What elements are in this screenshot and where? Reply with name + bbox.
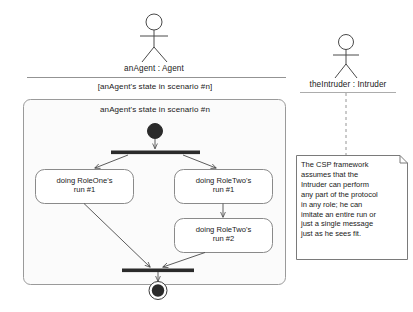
fork-bar (111, 151, 200, 155)
note-body-text: The CSP framework assumes that the Intru… (301, 160, 405, 239)
initial-node (148, 124, 163, 139)
activity-role-one-run-1-line1: doing RoleOne's (35, 176, 134, 185)
activity-role-two-run-1-label: doing RoleTwo's run #1 (174, 176, 273, 195)
activity-role-two-run-2-line1: doing RoleTwo's (174, 225, 273, 234)
activity-role-two-run-2-line2: run #2 (174, 234, 273, 243)
activity-role-one-run-1-line2: run #1 (35, 185, 134, 194)
guard-condition-label: [anAgent's state in scenario #n] (55, 82, 255, 92)
actor-intruder-label: theIntruder : Intruder (288, 80, 408, 90)
activity-role-one-run-1-label: doing RoleOne's run #1 (35, 176, 134, 195)
activity-role-two-run-1-line1: doing RoleTwo's (174, 176, 273, 185)
diagram-vector-layer (0, 0, 413, 312)
final-node (149, 282, 167, 300)
actor-intruder-icon (333, 35, 359, 79)
state-frame-title: anAgent's state in scenario #n (55, 105, 255, 115)
uml-activity-diagram: anAgent : Agent theIntruder : Intruder [… (0, 0, 413, 312)
join-bar (122, 269, 194, 273)
actor-agent-icon (140, 14, 168, 62)
actor-agent-label: anAgent : Agent (94, 64, 214, 74)
activity-role-two-run-1-line2: run #1 (174, 185, 273, 194)
activity-role-two-run-2-label: doing RoleTwo's run #2 (174, 225, 273, 244)
